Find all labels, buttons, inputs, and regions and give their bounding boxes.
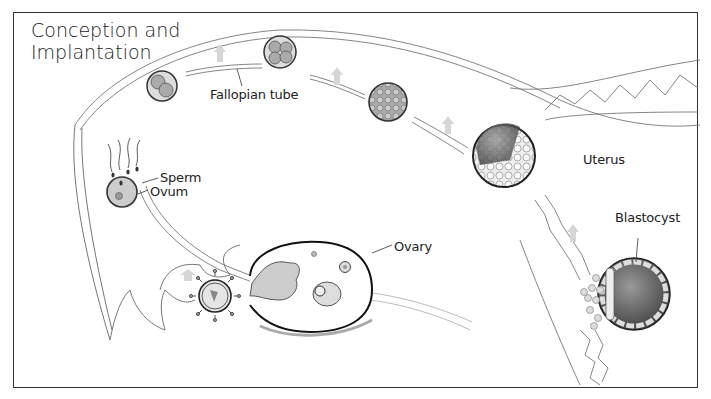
ovum-with-sperm xyxy=(107,138,140,207)
released-egg xyxy=(189,269,240,321)
diagram-title: Conception and Implantation xyxy=(31,19,180,63)
label-ovary: Ovary xyxy=(394,239,432,254)
label-fallopian-tube: Fallopian tube xyxy=(210,87,298,102)
title-line-2: Implantation xyxy=(31,41,180,63)
zygote-two-cell xyxy=(147,71,177,101)
uterus-walls xyxy=(520,75,698,385)
label-blastocyst: Blastocyst xyxy=(615,210,680,225)
early-blastocyst xyxy=(473,123,535,187)
label-sperm: Sperm xyxy=(160,170,201,185)
morula xyxy=(369,83,407,121)
title-line-1: Conception and xyxy=(31,19,180,41)
label-uterus: Uterus xyxy=(583,152,625,167)
label-ovum: Ovum xyxy=(150,184,188,199)
four-cell-embryo xyxy=(264,36,296,68)
ovarian-ligament xyxy=(370,293,472,330)
ovary xyxy=(250,242,372,335)
implanting-blastocyst xyxy=(581,258,671,330)
